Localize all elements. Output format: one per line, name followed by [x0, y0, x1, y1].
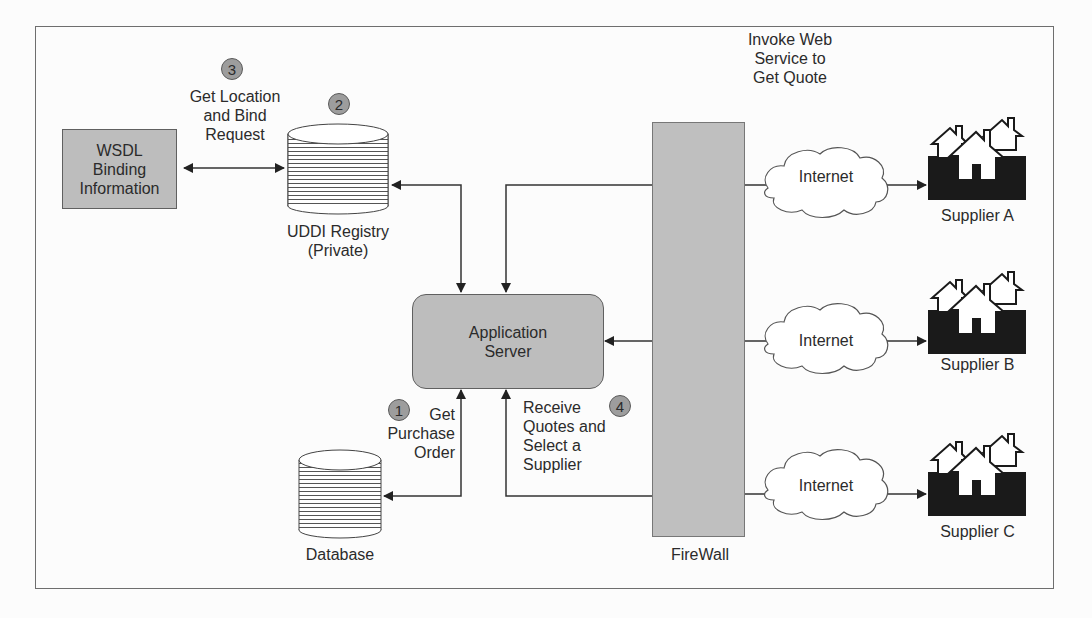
firewall-app-top-arrow [506, 185, 652, 292]
app-server-label-1: Application [469, 323, 547, 342]
wsdl-label-1: WSDL [96, 141, 142, 160]
application-server-box[interactable]: Application Server [412, 294, 604, 389]
supplier-b-buildings-icon [928, 272, 1026, 354]
internet-label-1: Internet [776, 167, 876, 186]
database-label: Database [290, 545, 390, 564]
wsdl-binding-box[interactable]: WSDL Binding Information [62, 129, 177, 209]
wsdl-label-2: Binding [93, 160, 146, 179]
firewall-block[interactable] [652, 122, 745, 537]
supplier-a-label[interactable]: Supplier A [920, 206, 1035, 225]
supplier-a-buildings-icon [928, 118, 1026, 200]
step-4-label: Receive Quotes and Select a Supplier [523, 398, 633, 474]
internet-label-3: Internet [776, 476, 876, 495]
uddi-database-icon [288, 124, 388, 214]
supplier-b-label[interactable]: Supplier B [920, 355, 1035, 374]
step-2-badge: 2 [328, 93, 350, 115]
app-server-label-2: Server [484, 342, 531, 361]
internet-label-2: Internet [776, 331, 876, 350]
supplier-c-buildings-icon [928, 434, 1026, 516]
database-icon [299, 450, 381, 538]
uddi-registry-label: UDDI Registry (Private) [268, 222, 408, 260]
step-3-label: Get Location and Bind Request [170, 87, 300, 144]
step-3-badge: 3 [221, 58, 243, 80]
firewall-label: FireWall [650, 545, 750, 564]
wsdl-label-3: Information [79, 179, 159, 198]
step-1-label: Get Purchase Order [360, 405, 455, 462]
supplier-c-label[interactable]: Supplier C [920, 522, 1035, 541]
invoke-web-service-label: Invoke Web Service to Get Quote [735, 30, 845, 87]
